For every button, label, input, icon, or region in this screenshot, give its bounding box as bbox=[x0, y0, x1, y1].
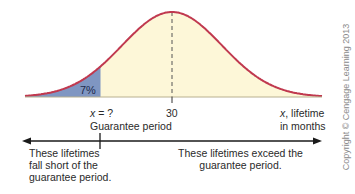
right-note-line: guarantee period. bbox=[153, 159, 328, 171]
left-note: These lifetimes fall short of the guaran… bbox=[29, 147, 111, 183]
guarantee-x-label: x = ? bbox=[90, 107, 113, 119]
axis-label-line2: in months bbox=[280, 120, 326, 132]
copyright-notice: Copyright © Cengage Learning 2013 bbox=[341, 24, 351, 171]
right-arrowhead-icon bbox=[313, 138, 322, 145]
guarantee-period-label: Guarantee period bbox=[90, 120, 172, 132]
left-note-line: These lifetimes bbox=[29, 147, 111, 159]
shaded-percent-label: 7% bbox=[80, 84, 96, 96]
left-note-line: fall short of the bbox=[29, 159, 111, 171]
axis-label-lifetime: , lifetime bbox=[285, 107, 324, 119]
area-under-curve bbox=[25, 12, 322, 97]
left-arrowhead-icon bbox=[22, 138, 31, 145]
axis-label-line1: x, lifetime bbox=[280, 107, 324, 119]
x-equals-question: = ? bbox=[95, 107, 113, 119]
left-note-line: guarantee period. bbox=[29, 171, 111, 183]
right-note: These lifetimes exceed the guarantee per… bbox=[153, 147, 328, 171]
mean-label: 30 bbox=[166, 107, 178, 119]
right-note-line: These lifetimes exceed the bbox=[153, 147, 328, 159]
